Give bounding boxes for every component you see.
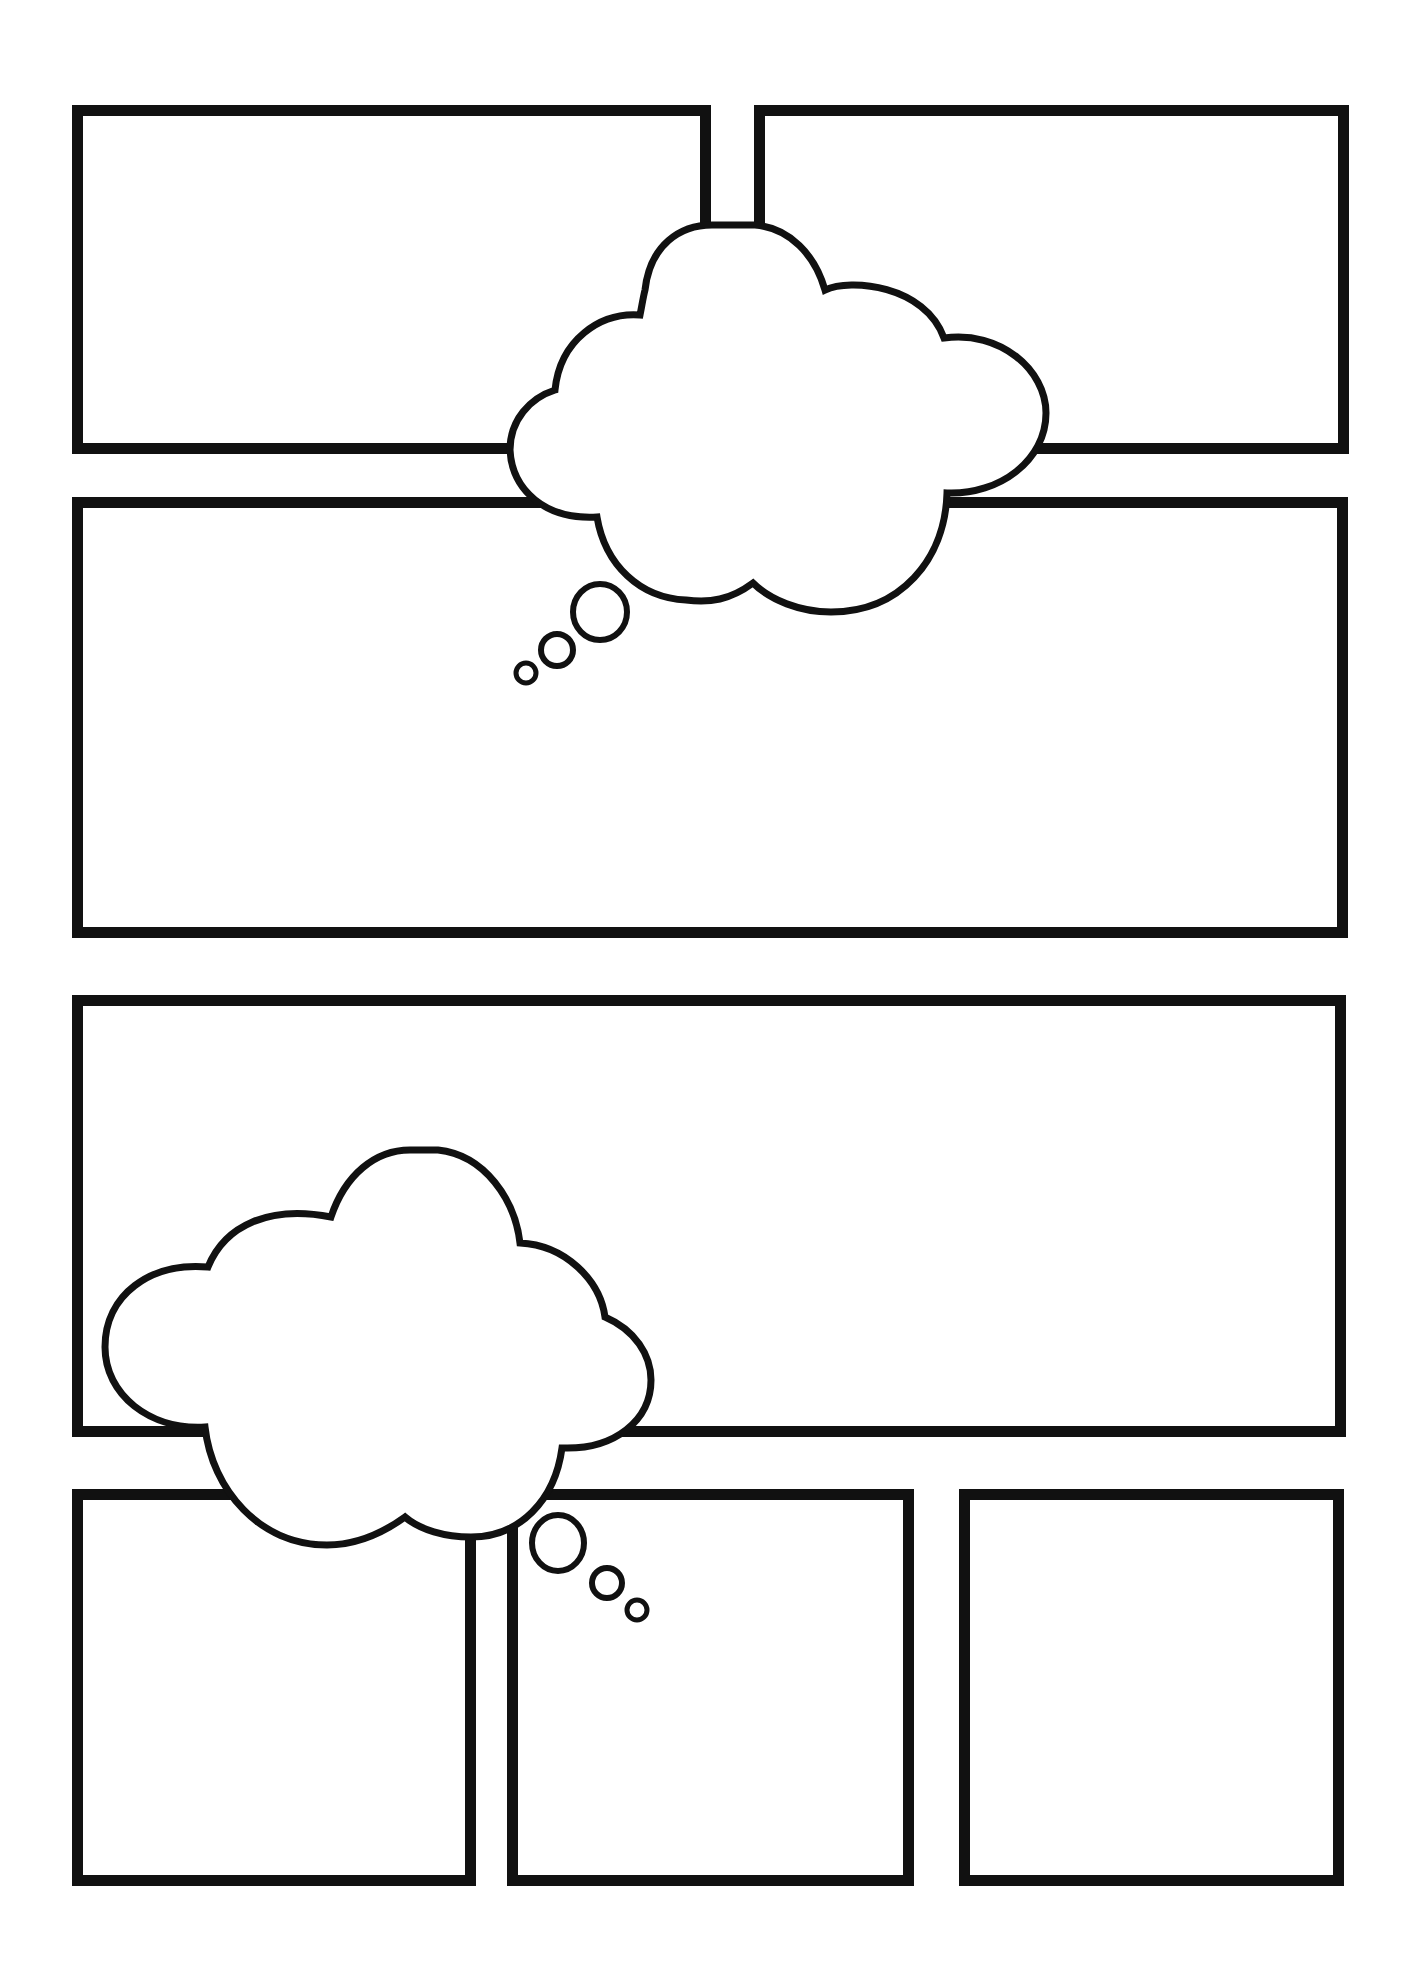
panel-row4-right: [959, 1489, 1344, 1886]
panel-row1-left: [72, 105, 711, 454]
panel-row4-left: [72, 1489, 476, 1886]
panel-row1-right: [754, 105, 1349, 454]
panel-row4-mid: [507, 1489, 914, 1886]
panel-row2: [72, 497, 1348, 938]
panel-row3: [72, 995, 1346, 1437]
